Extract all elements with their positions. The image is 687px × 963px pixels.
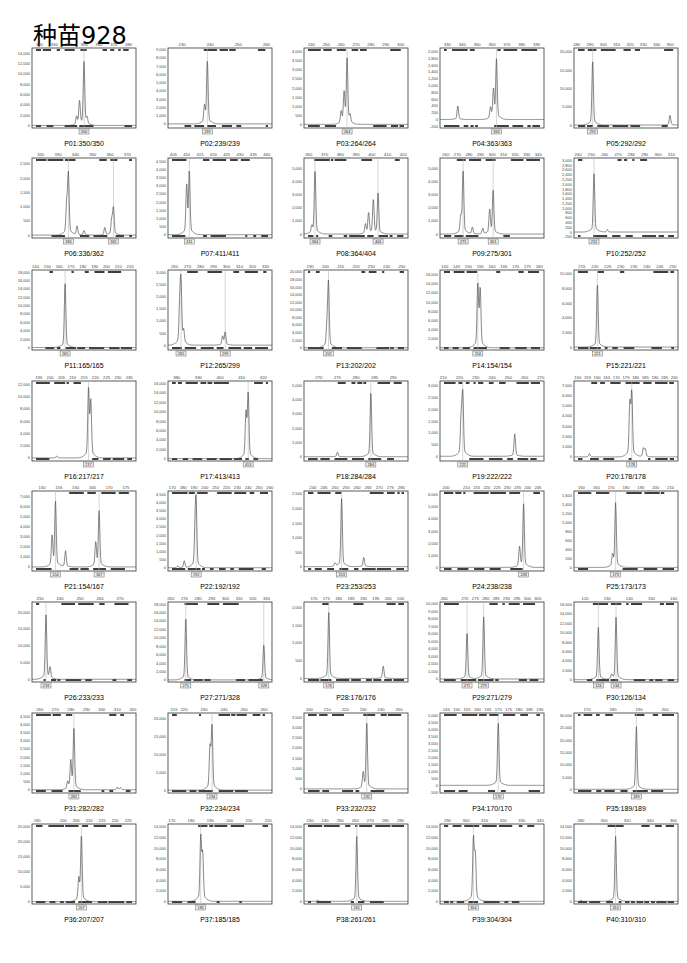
svg-text:413: 413 <box>245 463 251 467</box>
panel-caption: P28:176/176 <box>304 694 408 701</box>
svg-text:0: 0 <box>28 233 31 238</box>
svg-text:330: 330 <box>55 152 63 157</box>
svg-text:180: 180 <box>516 707 524 712</box>
svg-text:170: 170 <box>584 707 592 712</box>
svg-text:0: 0 <box>300 232 303 237</box>
svg-text:220: 220 <box>112 818 120 823</box>
svg-text:14,000: 14,000 <box>18 51 31 56</box>
chart-panel-p29: 26027027528028529029530030501,0002,0003,… <box>418 594 550 704</box>
svg-text:1,500: 1,500 <box>292 623 303 628</box>
svg-text:2,000: 2,000 <box>562 330 573 335</box>
svg-text:2,500: 2,500 <box>156 282 167 287</box>
chart-panel-p10: 240250260270280290300310-200020040060080… <box>552 150 684 260</box>
svg-text:250: 250 <box>77 596 85 601</box>
svg-text:3,000: 3,000 <box>20 738 31 743</box>
svg-text:220: 220 <box>223 485 231 490</box>
svg-text:240: 240 <box>322 818 330 823</box>
svg-text:4,500: 4,500 <box>428 720 439 725</box>
svg-text:175: 175 <box>323 596 331 601</box>
svg-text:3,000: 3,000 <box>292 411 303 416</box>
svg-text:800: 800 <box>431 90 438 95</box>
svg-text:275: 275 <box>460 240 466 244</box>
svg-text:250: 250 <box>398 264 406 269</box>
svg-text:160: 160 <box>489 264 497 269</box>
svg-text:3,000: 3,000 <box>156 516 167 521</box>
svg-text:1,000: 1,000 <box>156 216 167 221</box>
svg-text:220: 220 <box>591 264 599 269</box>
svg-text:2,000: 2,000 <box>156 669 167 674</box>
svg-text:7,000: 7,000 <box>428 624 439 629</box>
svg-text:190: 190 <box>636 707 644 712</box>
svg-text:1,000: 1,000 <box>292 640 303 645</box>
svg-text:0: 0 <box>570 123 573 128</box>
svg-text:0: 0 <box>570 677 573 682</box>
chart-panel-p09: 26027028029030031032033034001,0002,0003,… <box>418 150 550 260</box>
trace-line <box>304 58 408 125</box>
svg-text:1,000: 1,000 <box>156 318 167 323</box>
plot-svg: 15016017018019020021002004006008001,0001… <box>552 483 687 583</box>
svg-text:1,000: 1,000 <box>292 535 303 540</box>
trace-line <box>574 390 678 457</box>
svg-text:6,000: 6,000 <box>428 492 439 497</box>
svg-text:330: 330 <box>523 152 531 157</box>
svg-text:260: 260 <box>338 42 346 47</box>
svg-text:14,000: 14,000 <box>290 824 303 829</box>
svg-text:1,600: 1,600 <box>562 191 573 196</box>
svg-text:230: 230 <box>201 707 209 712</box>
svg-text:500: 500 <box>159 331 166 336</box>
svg-text:1,200: 1,200 <box>428 76 439 81</box>
svg-text:440: 440 <box>263 152 271 157</box>
svg-text:220: 220 <box>342 707 350 712</box>
svg-text:330: 330 <box>444 42 452 47</box>
panel-caption: P04:363/363 <box>440 140 544 147</box>
svg-text:800: 800 <box>565 210 572 215</box>
chart-panel-p15: 21522022523023524024525002,0004,0006,000… <box>552 262 684 372</box>
svg-text:3,000: 3,000 <box>428 192 439 197</box>
svg-text:190: 190 <box>91 264 99 269</box>
svg-text:225: 225 <box>494 485 502 490</box>
chart-panel-p35: 17018019020005,00010,00015,00020,00025,0… <box>552 705 684 815</box>
svg-text:160: 160 <box>56 264 64 269</box>
svg-text:320: 320 <box>37 152 45 157</box>
svg-text:222: 222 <box>460 463 466 467</box>
svg-text:280: 280 <box>197 264 205 269</box>
plot-svg: 26027027528028529029530030501,0002,0003,… <box>418 594 568 694</box>
svg-text:2,000: 2,000 <box>156 105 167 110</box>
chart-panel-p11: 14015016017018019020021022002,0004,0006,… <box>10 262 142 372</box>
trace-line <box>440 723 544 785</box>
svg-text:390: 390 <box>353 152 361 157</box>
svg-text:8,000: 8,000 <box>292 856 303 861</box>
svg-text:2,500: 2,500 <box>20 161 31 166</box>
svg-text:2,000: 2,000 <box>156 533 167 538</box>
svg-text:285: 285 <box>371 375 379 380</box>
svg-text:220: 220 <box>92 375 100 380</box>
svg-text:0: 0 <box>300 899 303 904</box>
svg-text:360: 360 <box>489 42 497 47</box>
panel-caption: P17:413/413 <box>168 473 272 480</box>
svg-text:154: 154 <box>52 573 58 577</box>
svg-text:1,000: 1,000 <box>428 769 439 774</box>
svg-text:20,000: 20,000 <box>560 49 573 54</box>
svg-text:4,000: 4,000 <box>292 179 303 184</box>
svg-text:260: 260 <box>266 485 274 490</box>
trace-line <box>168 61 272 124</box>
svg-text:360: 360 <box>95 42 103 47</box>
svg-text:1,500: 1,500 <box>20 763 31 768</box>
svg-text:250: 250 <box>337 818 345 823</box>
svg-text:15,000: 15,000 <box>18 626 31 631</box>
svg-text:2,000: 2,000 <box>428 407 439 412</box>
plot-svg: 19520020521021522022523023502,0004,0006,… <box>10 373 160 473</box>
svg-text:145: 145 <box>443 707 451 712</box>
trace-line <box>440 504 544 568</box>
svg-text:1,000: 1,000 <box>20 204 31 209</box>
svg-text:260: 260 <box>171 264 179 269</box>
svg-text:4,000: 4,000 <box>20 722 31 727</box>
svg-text:364: 364 <box>312 240 318 244</box>
svg-text:320: 320 <box>36 42 44 47</box>
svg-text:200: 200 <box>322 264 330 269</box>
svg-text:170: 170 <box>169 485 177 490</box>
svg-text:0: 0 <box>164 565 167 570</box>
trace-line <box>304 393 408 456</box>
svg-text:170: 170 <box>512 264 520 269</box>
svg-text:285: 285 <box>493 596 501 601</box>
